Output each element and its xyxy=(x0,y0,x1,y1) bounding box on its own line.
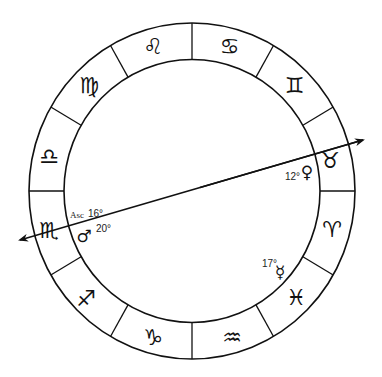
astrological-chart: ♋ ♊ ♉ ♈ ♓ ♒ ♑ ♐ ♏ ♎ ♍ ♌ Asc 16° ♂ 20° ♀ … xyxy=(0,0,382,377)
libra-icon: ♎ xyxy=(39,144,59,169)
cancer-icon: ♋ xyxy=(220,34,240,59)
capricorn-icon: ♑ xyxy=(143,325,163,350)
mars-degree: 20° xyxy=(96,223,111,234)
sagittarius-icon: ♐ xyxy=(76,286,96,311)
ascendant-label: Asc xyxy=(70,210,84,220)
mars-icon: ♂ xyxy=(76,226,91,246)
mercury-degree: 17° xyxy=(262,258,277,269)
venus-degree: 12° xyxy=(285,171,300,182)
inner-ring xyxy=(64,60,320,323)
venus-icon: ♀ xyxy=(301,162,313,182)
pisces-icon: ♓ xyxy=(286,285,306,310)
ascendant-degree: 16° xyxy=(88,208,103,219)
aries-icon: ♈ xyxy=(322,217,342,242)
virgo-icon: ♍ xyxy=(79,73,99,98)
leo-icon: ♌ xyxy=(143,34,163,59)
sign-glyphs: ♋ ♊ ♉ ♈ ♓ ♒ ♑ ♐ ♏ ♎ ♍ ♌ xyxy=(39,34,342,350)
gemini-icon: ♊ xyxy=(285,73,305,98)
aquarius-icon: ♒ xyxy=(222,325,242,350)
